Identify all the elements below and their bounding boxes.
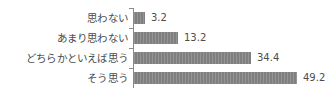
category-label: そう思う [87, 68, 128, 88]
category-label-row: 思わない [0, 8, 128, 28]
bar-with-value: 49.2 [134, 72, 325, 84]
category-label-row: そう思う [0, 68, 128, 88]
bar-value-label: 34.4 [257, 52, 279, 64]
axis-tick [129, 68, 134, 69]
bar-value-label: 49.2 [303, 72, 325, 84]
bar [134, 72, 297, 84]
bar-value-label: 3.2 [151, 12, 167, 24]
category-label-row: あまり思わない [0, 28, 128, 48]
bar-row: 3.2 [133, 8, 335, 28]
bar [134, 12, 145, 24]
category-axis-labels: 思わない あまり思わない どちらかといえば思う そう思う [0, 8, 128, 88]
bar-value-label: 13.2 [184, 32, 206, 44]
bar-with-value: 34.4 [134, 52, 279, 64]
category-label: あまり思わない [57, 28, 128, 48]
category-label: 思わない [87, 8, 128, 28]
bar-with-value: 13.2 [134, 32, 206, 44]
bar-with-value: 3.2 [134, 12, 167, 24]
category-label-row: どちらかといえば思う [0, 48, 128, 68]
plot-area: 3.2 13.2 34.4 [133, 8, 335, 88]
bar [134, 52, 251, 64]
horizontal-bar-chart: 思わない あまり思わない どちらかといえば思う そう思う 3.2 [0, 0, 335, 95]
axis-tick [129, 48, 134, 49]
bar-row: 49.2 [133, 68, 335, 88]
category-label: どちらかといえば思う [26, 48, 128, 68]
bar-rows: 3.2 13.2 34.4 [133, 8, 335, 88]
bar-row: 13.2 [133, 28, 335, 48]
axis-tick [129, 28, 134, 29]
bar-row: 34.4 [133, 48, 335, 68]
bar [134, 32, 178, 44]
axis-tick [129, 8, 134, 9]
